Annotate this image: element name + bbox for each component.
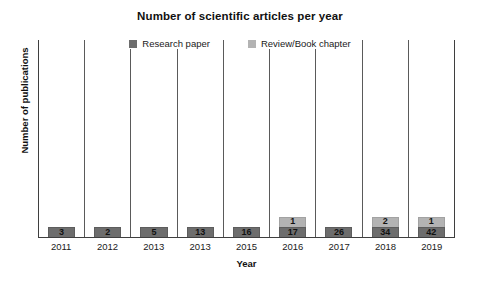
bar-segment-review-book-chapter[interactable]: 2 xyxy=(372,217,399,227)
bar-value-label-research-paper: 34 xyxy=(380,228,390,237)
bar-value-label-review-book-chapter: 2 xyxy=(383,217,388,226)
bar-segment-research-paper[interactable]: 42 xyxy=(418,227,445,237)
bar-segment-research-paper[interactable]: 5 xyxy=(140,227,167,237)
x-axis-tick-label: 2017 xyxy=(316,241,362,252)
x-axis-tick-label: 2016 xyxy=(270,241,316,252)
category-band: 16 xyxy=(224,40,270,237)
x-axis-tick-label: 2012 xyxy=(84,241,130,252)
category-band: 13 xyxy=(178,40,224,237)
bar-segment-research-paper[interactable]: 17 xyxy=(279,227,306,237)
x-axis-tick-label: 2019 xyxy=(409,241,455,252)
bar-segment-review-book-chapter[interactable]: 1 xyxy=(279,217,306,227)
bar-stack[interactable]: 13 xyxy=(187,227,214,237)
bar-segment-research-paper[interactable]: 26 xyxy=(325,227,352,237)
legend-label-review-book-chapter: Review/Book chapter xyxy=(261,38,351,49)
category-band: 234 xyxy=(363,40,409,237)
legend-item-review-book-chapter[interactable]: Review/Book chapter xyxy=(246,38,353,49)
legend-item-research-paper[interactable]: Research paper xyxy=(127,38,212,49)
x-axis-tick-labels: 201120122013201320152016201720182019 xyxy=(38,241,455,252)
bar-value-label-review-book-chapter: 1 xyxy=(429,217,434,226)
x-axis-tick-label: 2018 xyxy=(362,241,408,252)
x-axis-tick-label: 2013 xyxy=(131,241,177,252)
bar-value-label-research-paper: 2 xyxy=(105,228,110,237)
x-axis-title: Year xyxy=(38,258,455,269)
x-axis-tick-label: 2013 xyxy=(177,241,223,252)
bar-segment-research-paper[interactable]: 3 xyxy=(48,227,75,237)
x-axis-tick-label: 2015 xyxy=(223,241,269,252)
x-axis-tick-label: 2011 xyxy=(38,241,84,252)
category-band: 26 xyxy=(316,40,362,237)
category-band: 5 xyxy=(131,40,177,237)
bar-segment-research-paper[interactable]: 2 xyxy=(94,227,121,237)
bar-stack[interactable]: 234 xyxy=(372,217,399,237)
category-band: 2 xyxy=(85,40,131,237)
legend-swatch-research-paper-icon xyxy=(129,40,137,48)
bar-stack[interactable]: 3 xyxy=(48,227,75,237)
legend-swatch-review-book-chapter-icon xyxy=(248,40,256,48)
y-axis-title: Number of publications xyxy=(19,31,30,171)
legend-label-research-paper: Research paper xyxy=(142,38,210,49)
bar-stack[interactable]: 16 xyxy=(233,227,260,237)
chart-title: Number of scientific articles per year xyxy=(0,10,480,22)
bar-value-label-research-paper: 13 xyxy=(195,228,205,237)
bar-segment-research-paper[interactable]: 16 xyxy=(233,227,260,237)
bar-segment-review-book-chapter[interactable]: 1 xyxy=(418,217,445,227)
bar-value-label-research-paper: 26 xyxy=(334,228,344,237)
category-band: 117 xyxy=(270,40,316,237)
category-band: 3 xyxy=(39,40,85,237)
bar-stack[interactable]: 26 xyxy=(325,227,352,237)
bar-stack[interactable]: 142 xyxy=(418,217,445,237)
category-bands: 325131611726234142 xyxy=(39,40,454,237)
bar-value-label-research-paper: 17 xyxy=(288,228,298,237)
bar-value-label-review-book-chapter: 1 xyxy=(290,217,295,226)
bar-segment-research-paper[interactable]: 13 xyxy=(187,227,214,237)
bar-stack[interactable]: 5 xyxy=(140,227,167,237)
category-band: 142 xyxy=(409,40,454,237)
bar-stack[interactable]: 117 xyxy=(279,217,306,237)
bar-value-label-research-paper: 16 xyxy=(241,228,251,237)
chart-container: Number of scientific articles per year R… xyxy=(0,0,480,287)
bar-stack[interactable]: 2 xyxy=(94,227,121,237)
bar-value-label-research-paper: 5 xyxy=(152,228,157,237)
plot-area: 325131611726234142 xyxy=(38,40,455,238)
bar-value-label-research-paper: 3 xyxy=(59,228,64,237)
bar-value-label-research-paper: 42 xyxy=(426,228,436,237)
bar-segment-research-paper[interactable]: 34 xyxy=(372,227,399,237)
chart-legend: Research paper Review/Book chapter xyxy=(0,38,480,49)
